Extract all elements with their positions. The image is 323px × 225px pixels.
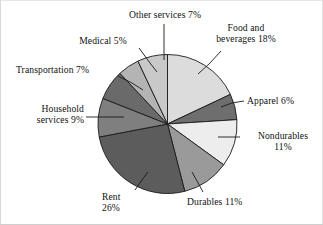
pie-label-household-services-line1: Household — [5, 103, 84, 114]
pie-label-nondurables-line2: 11% — [245, 141, 321, 152]
pie-label-rent: Rent 26% — [102, 191, 162, 214]
pie-label-apparel-line1: Apparel 6% — [247, 95, 321, 106]
pie-label-transportation: Transportation 7% — [16, 64, 126, 75]
pie-label-apparel: Apparel 6% — [247, 95, 321, 106]
pie-label-food-beverages-line2: beverages 18% — [196, 33, 296, 44]
pie-label-household-services: Household services 9% — [5, 103, 84, 126]
pie-label-medical: Medical 5% — [55, 35, 151, 46]
pie-label-food-beverages: Food and beverages 18% — [196, 22, 296, 45]
pie-label-rent-line2: 26% — [102, 202, 162, 213]
pie-label-food-beverages-line1: Food and — [196, 22, 296, 33]
pie-label-durables-line1: Durables 11% — [187, 196, 287, 207]
pie-label-other-services: Other services 7% — [92, 9, 238, 20]
pie-label-nondurables-line1: Nondurables — [245, 130, 321, 141]
pie-label-other-services-line1: Other services 7% — [92, 9, 238, 20]
pie-label-household-services-line2: services 9% — [5, 114, 84, 125]
pie-label-rent-line1: Rent — [102, 191, 162, 202]
pie-label-durables: Durables 11% — [187, 196, 287, 207]
pie-label-transportation-line1: Transportation 7% — [16, 64, 126, 75]
pie-label-nondurables: Nondurables 11% — [245, 130, 321, 153]
pie-label-medical-line1: Medical 5% — [55, 35, 151, 46]
pie-chart-figure: Other services 7% Food and beverages 18%… — [0, 0, 323, 225]
